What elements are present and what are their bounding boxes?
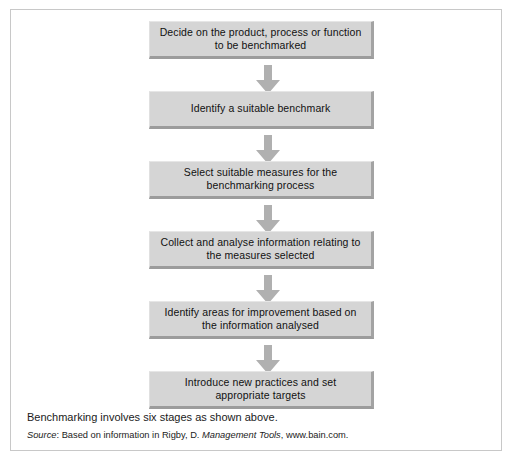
figure-source: Source: Based on information in Rigby, D… — [27, 429, 487, 442]
flow-node-label: Collect and analyse information relating… — [152, 236, 368, 263]
flow-node-label: Identify a suitable benchmark — [183, 102, 339, 116]
figure-frame: Decide on the product, process or functi… — [10, 9, 502, 451]
flow-node-step-1: Decide on the product, process or functi… — [149, 21, 374, 59]
source-text-after: , www.bain.com. — [281, 430, 349, 440]
figure-caption: Benchmarking involves six stages as show… — [27, 410, 487, 425]
flow-node-label: Introduce new practices and set appropri… — [177, 376, 345, 403]
source-label: Source — [27, 430, 56, 440]
flow-node-step-6: Introduce new practices and set appropri… — [149, 371, 374, 409]
flow-node-step-3: Select suitable measures for the benchma… — [149, 161, 374, 199]
flow-node-step-5: Identify areas for improvement based on … — [149, 301, 374, 339]
flow-node-step-2: Identify a suitable benchmark — [149, 91, 374, 129]
flowchart: Decide on the product, process or functi… — [11, 10, 501, 408]
caption-block: Benchmarking involves six stages as show… — [27, 410, 487, 442]
flow-node-step-4: Collect and analyse information relating… — [149, 231, 374, 269]
source-text-before: Based on information in Rigby, D. — [62, 430, 202, 440]
flow-node-label: Decide on the product, process or functi… — [152, 26, 370, 53]
flow-node-label: Identify areas for improvement based on … — [156, 306, 364, 333]
flow-node-label: Select suitable measures for the benchma… — [176, 166, 345, 193]
source-title: Management Tools — [202, 430, 281, 440]
